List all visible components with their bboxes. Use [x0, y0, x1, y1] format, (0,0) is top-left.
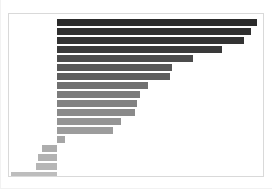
bar[interactable] — [36, 163, 57, 170]
screenshot-root — [0, 0, 272, 189]
bar[interactable] — [57, 19, 257, 26]
bar[interactable] — [57, 91, 139, 98]
bar[interactable] — [57, 73, 170, 80]
bar[interactable] — [57, 82, 148, 89]
bar[interactable] — [57, 28, 250, 35]
bar[interactable] — [57, 127, 113, 134]
bar[interactable] — [57, 55, 193, 62]
bar[interactable] — [57, 100, 137, 107]
capture-edge-bottom — [0, 188, 272, 189]
plot-area — [9, 14, 263, 176]
bar[interactable] — [57, 64, 172, 71]
bar[interactable] — [57, 46, 222, 53]
bar[interactable] — [57, 37, 244, 44]
bar[interactable] — [57, 109, 135, 116]
bar[interactable] — [57, 136, 65, 143]
bar[interactable] — [38, 154, 57, 161]
bar[interactable] — [57, 118, 121, 125]
chart-panel — [8, 13, 264, 177]
bar[interactable] — [11, 172, 57, 177]
capture-edge-left — [0, 0, 1, 189]
bar[interactable] — [42, 145, 57, 152]
